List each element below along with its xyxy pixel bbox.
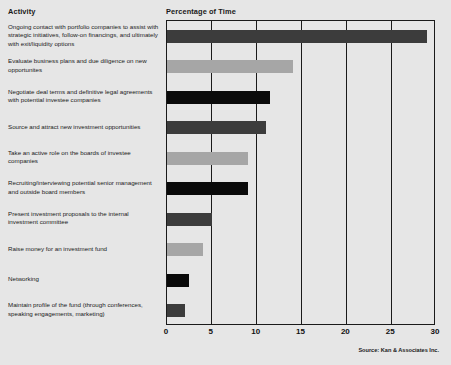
bar <box>167 243 203 256</box>
gridline-25 <box>391 21 392 324</box>
activity-label: Recruiting/interviewing potential senior… <box>8 179 160 196</box>
activity-label: Networking <box>8 275 160 283</box>
x-tick-0: 0 <box>164 327 168 336</box>
activity-label: Raise money for an investment fund <box>8 245 160 253</box>
x-tick-10: 10 <box>251 327 260 336</box>
activity-label: Source and attract new investment opport… <box>8 123 160 131</box>
bar <box>167 304 185 317</box>
x-tick-5: 5 <box>209 327 213 336</box>
bar <box>167 30 427 43</box>
column-header-percentage: Percentage of Time <box>166 7 236 16</box>
gridline-20 <box>346 21 347 324</box>
bar <box>167 274 189 287</box>
activity-label: Maintain profile of the fund (through co… <box>8 301 160 318</box>
x-tick-30: 30 <box>431 327 440 336</box>
source-attribution: Source: Kan & Associates Inc. <box>358 347 439 353</box>
x-tick-25: 25 <box>386 327 395 336</box>
bar <box>167 121 266 134</box>
bar <box>167 91 270 104</box>
bar <box>167 182 248 195</box>
activity-label: Evaluate business plans and due diligenc… <box>8 57 160 74</box>
bar <box>167 60 293 73</box>
bar <box>167 152 248 165</box>
activity-label: Take an active role on the boards of inv… <box>8 149 160 166</box>
gridline-15 <box>301 21 302 324</box>
column-header-activity: Activity <box>8 7 36 16</box>
activity-label: Negotiate deal terms and definitive lega… <box>8 88 160 105</box>
x-tick-20: 20 <box>341 327 350 336</box>
plot-area <box>166 20 435 325</box>
activity-label: Ongoing contact with portfolio companies… <box>8 23 160 48</box>
activity-label: Present investment proposals to the inte… <box>8 210 160 227</box>
x-tick-15: 15 <box>296 327 305 336</box>
bar <box>167 213 212 226</box>
chart-figure: Activity Percentage of Time Ongoing cont… <box>0 0 451 365</box>
